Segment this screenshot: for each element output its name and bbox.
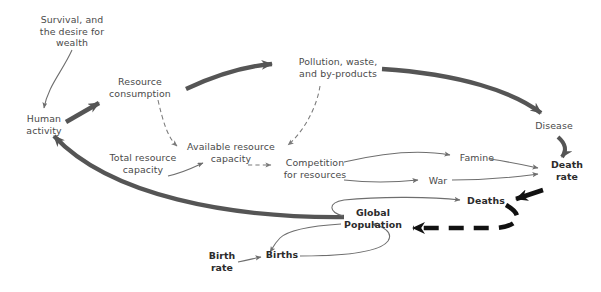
- node-available-resource-capacity: Available resource capacity: [180, 141, 282, 164]
- causal-loop-diagram: Survival, and the desire for wealth Reso…: [0, 0, 601, 292]
- edge-survival-to-human-activity: [44, 50, 72, 108]
- node-pollution-waste-byproducts: Pollution, waste, and by-products: [288, 56, 388, 79]
- edge-global-population-to-births: [270, 224, 341, 252]
- node-disease: Disease: [530, 120, 578, 132]
- node-total-resource-capacity: Total resource capacity: [103, 152, 183, 175]
- edge-resource-consumption-to-pollution: [186, 64, 272, 89]
- edge-resource-consumption-to-available-capacity: [158, 100, 177, 146]
- edge-pollution-to-available-capacity: [288, 86, 320, 145]
- node-birth-rate: Birth rate: [205, 250, 239, 273]
- node-competition-for-resources: Competition for resources: [276, 157, 354, 180]
- node-resource-consumption: Resource consumption: [100, 76, 180, 99]
- node-war: War: [424, 175, 452, 187]
- edge-death-rate-to-deaths: [516, 190, 543, 199]
- edge-pollution-to-disease: [382, 69, 541, 113]
- edge-competition-to-famine: [344, 152, 450, 162]
- node-human-activity: Human activity: [18, 113, 70, 136]
- node-death-rate: Death rate: [546, 159, 588, 182]
- node-survival-desire-wealth: Survival, and the desire for wealth: [26, 14, 118, 49]
- node-famine: Famine: [456, 152, 498, 164]
- node-global-population: Global Population: [339, 207, 407, 230]
- edge-disease-to-death-rate: [558, 137, 565, 157]
- edge-human-activity-to-resource-consumption: [66, 103, 99, 122]
- edge-war-to-death-rate: [452, 174, 538, 180]
- edge-competition-to-war: [344, 180, 418, 182]
- node-deaths: Deaths: [465, 195, 507, 207]
- edge-deaths-to-global-population: [413, 205, 517, 228]
- node-births: Births: [265, 249, 299, 261]
- edge-birth-rate-to-births: [238, 257, 261, 262]
